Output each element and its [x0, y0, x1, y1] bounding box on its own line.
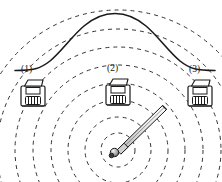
receiver-flap — [192, 80, 211, 86]
receiver-label-1: (1) — [21, 64, 32, 74]
receiver-window — [26, 88, 40, 95]
receiver-flap — [25, 80, 44, 86]
wavefront-arc — [68, 100, 168, 182]
receiver-window — [193, 88, 207, 95]
receiver-2[interactable] — [106, 79, 130, 105]
receiver-coil-housing — [26, 97, 41, 105]
rod-highlight — [122, 107, 164, 148]
receiver-3[interactable] — [188, 80, 212, 106]
source-point — [109, 153, 114, 158]
receiver-coil-housing — [193, 97, 208, 105]
bell-curve — [15, 14, 215, 71]
receiver-label-2: (2) — [107, 63, 118, 73]
figure-canvas — [0, 0, 222, 182]
seismic-survey-figure: (1) (2) (3) — [0, 0, 222, 182]
receiver-label-3: (3) — [189, 64, 200, 74]
receiver-1[interactable] — [21, 80, 45, 106]
impact-rod[interactable] — [109, 106, 166, 158]
receiver-flap — [110, 79, 129, 85]
receiver-window — [111, 87, 125, 94]
receiver-coil-housing — [111, 96, 126, 104]
